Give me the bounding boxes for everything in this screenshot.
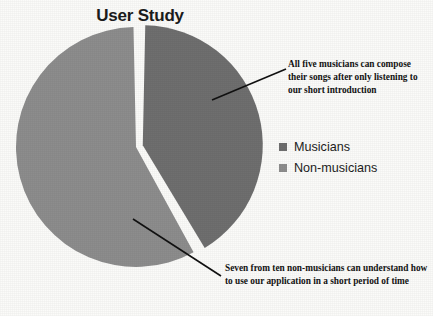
- legend-swatch-non-musicians: [279, 164, 287, 172]
- legend-label-musicians: Musicians: [294, 140, 350, 154]
- annotation-musicians: All five musicians can compose their son…: [288, 58, 430, 98]
- pie-chart-figure: User Study All five musicians can compos…: [0, 0, 433, 316]
- legend: Musicians Non-musicians: [279, 136, 377, 178]
- annotation-non-musicians: Seven from ten non-musicians can underst…: [225, 262, 431, 288]
- legend-swatch-musicians: [279, 143, 287, 151]
- legend-item-musicians[interactable]: Musicians: [279, 136, 377, 157]
- legend-label-non-musicians: Non-musicians: [294, 161, 377, 175]
- legend-item-non-musicians[interactable]: Non-musicians: [279, 157, 377, 178]
